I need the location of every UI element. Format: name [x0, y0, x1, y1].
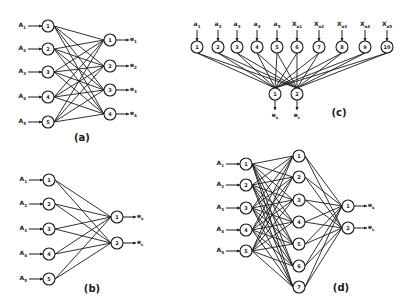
- panel-b-input-node-number: 1: [47, 177, 51, 183]
- panel-d-input-node-number: 1: [244, 161, 248, 167]
- panel-d-input-node-number: 4: [244, 227, 248, 233]
- panel-a-output-node-number: 2: [108, 63, 112, 69]
- panel-d-input-label: A3: [217, 203, 225, 212]
- panel-b-input-label: A3: [20, 224, 28, 233]
- arrowhead-icon: [133, 241, 136, 244]
- arrowhead-icon: [295, 107, 298, 110]
- panel-d-edge: [305, 200, 342, 206]
- panel-d-input-node-number: 5: [244, 248, 248, 254]
- panel-d-input-node-number: 2: [244, 182, 248, 188]
- panel-a-edge: [54, 90, 104, 122]
- panel-c-input-node-number: 6: [295, 44, 299, 50]
- panel-d-input-label: A1: [217, 159, 225, 168]
- panel-c-input-node-number: 10: [384, 44, 391, 50]
- panel-b-input-label: A4: [20, 249, 28, 258]
- panel-c-input-label: a5: [274, 20, 281, 29]
- panel-c-input-label: a1: [194, 20, 201, 29]
- panel-a-input-label: A3: [19, 67, 27, 76]
- panel-c-caption: (c): [331, 107, 346, 118]
- neural-network-diagrams: 1234512341234512123456789101212345123456…: [0, 0, 411, 306]
- panel-b-output-node-number: 1: [115, 214, 119, 220]
- panel-b-input-node-number: 3: [47, 226, 51, 232]
- panel-c-input-label: Xa3: [337, 20, 347, 29]
- panel-a-output-node-number: 4: [108, 111, 112, 117]
- panel-a-output-label: e1: [130, 35, 137, 44]
- io-arrows: [28, 24, 389, 280]
- panel-a-edge: [54, 26, 104, 66]
- panel-c-edge: [275, 53, 365, 88]
- panel-a-output-label: e3: [130, 85, 137, 94]
- panel-c-input-label: a2: [215, 20, 222, 29]
- panel-a-caption: (a): [74, 132, 90, 143]
- panel-d-hidden-node-number: 5: [297, 241, 301, 247]
- panel-b-input-label: A1: [20, 175, 28, 184]
- panel-d-hidden-node-number: 7: [297, 284, 301, 290]
- panel-a-input-node-number: 4: [46, 94, 50, 100]
- panel-a-input-node-number: 3: [46, 69, 50, 75]
- panel-c-input-node-number: 1: [195, 44, 199, 50]
- panel-a-input-label: A4: [19, 92, 27, 101]
- io-labels: A1A2A3A4A5e1e2e3e4A1A2A3A4A5eseca1a2a3a4…: [19, 20, 393, 283]
- panel-d-input-node-number: 3: [244, 205, 248, 211]
- panel-a-input-node-number: 2: [46, 46, 50, 52]
- panel-a-input-label: A1: [19, 21, 27, 30]
- panel-c-output-label: ec: [294, 111, 301, 120]
- arrowhead-icon: [133, 215, 136, 218]
- panel-a-output-label: e4: [130, 109, 137, 118]
- panel-c-input-label: Xa2: [314, 20, 324, 29]
- panel-b-output-label: es: [137, 212, 144, 221]
- panel-d-output-label: ec: [368, 223, 375, 232]
- panel-b-input-node-number: 5: [47, 276, 51, 282]
- panel-d-input-label: A5: [217, 246, 225, 255]
- panel-d-input-label: A2: [217, 180, 225, 189]
- panel-d-edge: [252, 156, 293, 230]
- arrowhead-icon: [364, 204, 367, 207]
- panel-a-edge: [54, 72, 104, 114]
- panel-c-input-node-number: 9: [363, 44, 367, 50]
- panel-c-input-node-number: 5: [275, 44, 279, 50]
- arrowhead-icon: [126, 38, 129, 41]
- panel-a-output-node-number: 1: [108, 37, 112, 43]
- arrowhead-icon: [126, 112, 129, 115]
- panel-c-input-label: a4: [254, 20, 261, 29]
- panel-c-edge: [237, 53, 275, 88]
- panel-b-edge: [55, 204, 111, 243]
- panel-d-edge: [305, 206, 342, 287]
- panel-a-edge: [54, 114, 104, 122]
- panel-b-caption: (b): [84, 283, 100, 294]
- panel-b-output-label: ec: [137, 238, 144, 247]
- panel-a-input-label: A5: [19, 117, 27, 126]
- panel-c-output-node-number: 2: [295, 91, 299, 97]
- panel-d-output-node-number: 2: [346, 225, 350, 231]
- panel-c-input-node-number: 2: [216, 44, 220, 50]
- panel-c-output-label: es: [272, 111, 279, 120]
- panel-d-hidden-node-number: 4: [297, 219, 301, 225]
- panel-d-input-label: A4: [217, 225, 225, 234]
- panel-a-edge: [54, 26, 104, 40]
- panel-b-output-node-number: 2: [115, 240, 119, 246]
- arrowhead-icon: [273, 107, 276, 110]
- panel-a-input-node-number: 1: [46, 23, 50, 29]
- panel-a-edge: [54, 49, 104, 90]
- panel-c-input-label: Xa4: [360, 20, 370, 29]
- panel-d-hidden-node-number: 3: [297, 197, 301, 203]
- panel-d-hidden-node-number: 6: [297, 263, 301, 269]
- panel-c-input-node-number: 7: [317, 44, 321, 50]
- panel-d-caption: (d): [333, 282, 349, 293]
- arrowhead-icon: [364, 226, 367, 229]
- arrowhead-icon: [126, 64, 129, 67]
- panel-d-edge: [305, 177, 342, 228]
- panel-b-input-node-number: 4: [47, 251, 51, 257]
- panel-a-output-label: e2: [130, 61, 137, 70]
- panel-d-hidden-node-number: 2: [297, 174, 301, 180]
- panel-b-input-node-number: 2: [47, 201, 51, 207]
- panel-c-input-label: Xa1: [292, 20, 302, 29]
- panel-a-edge: [54, 40, 104, 97]
- panel-c-edge: [297, 53, 387, 88]
- arrowhead-icon: [126, 88, 129, 91]
- panel-b-edge: [55, 204, 111, 217]
- panel-c-input-label: Xa5: [382, 20, 392, 29]
- panel-c-input-node-number: 8: [340, 44, 344, 50]
- panel-c-input-node-number: 4: [255, 44, 259, 50]
- panel-c-input-label: a3: [234, 20, 241, 29]
